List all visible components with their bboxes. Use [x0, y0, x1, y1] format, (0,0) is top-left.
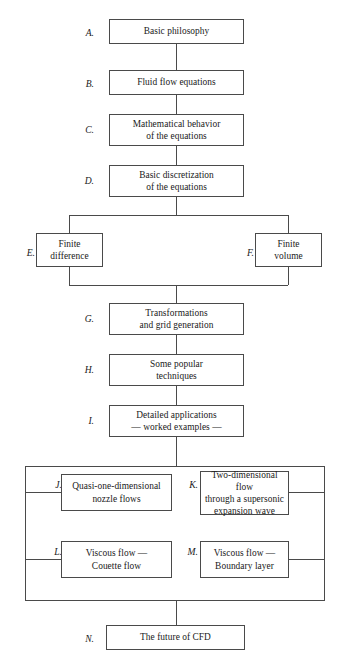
node-a-line-1: Basic philosophy	[144, 25, 210, 37]
node-box-k: Two-dimensional flow through a supersoni…	[200, 471, 289, 515]
node-c-line-2: of the equations	[133, 130, 221, 142]
node-box-m: Viscous flow — Boundary layer	[200, 541, 289, 578]
connector-g-h	[176, 335, 177, 354]
node-l-line-2: Couette flow	[86, 560, 148, 572]
node-i-line-2: — worked examples —	[131, 421, 221, 433]
node-h-line-2: techniques	[150, 370, 203, 382]
node-d-line-2: of the equations	[139, 181, 214, 193]
connector-h-i	[176, 386, 177, 405]
node-g-line-1: Transformations	[140, 307, 214, 319]
split-leg-f	[288, 215, 289, 233]
merge-bar-ef-bottom	[69, 285, 288, 286]
node-d-line-1: Basic discretization	[139, 169, 214, 181]
node-label-l: L.	[40, 547, 62, 557]
node-e-line-1: Finite	[50, 238, 88, 250]
flowchart-diagram: A. Basic philosophy B. Fluid flow equati…	[0, 0, 340, 659]
node-box-h: Some popular techniques	[109, 354, 244, 386]
node-label-g: G.	[72, 314, 94, 324]
node-c-line-1: Mathematical behavior	[133, 118, 221, 130]
node-f-line-1: Finite	[274, 238, 302, 250]
node-e-line-2: difference	[50, 250, 88, 262]
node-l-line-1: Viscous flow —	[86, 547, 148, 559]
connector-b-c	[176, 95, 177, 114]
node-label-a: A.	[72, 28, 94, 38]
connector-a-b	[176, 44, 177, 70]
node-g-line-2: and grid generation	[140, 319, 214, 331]
node-j-line-2: nozzle flows	[72, 493, 161, 505]
node-box-g: Transformations and grid generation	[109, 303, 244, 335]
node-i-line-1: Detailed applications	[131, 409, 221, 421]
node-box-e: Finite difference	[36, 233, 103, 267]
connector-group-n	[176, 601, 177, 625]
node-box-j: Quasi-one-dimensional nozzle flows	[61, 474, 172, 511]
node-label-b: B.	[72, 79, 94, 89]
node-label-f: F.	[232, 248, 254, 258]
node-b-line-1: Fluid flow equations	[137, 76, 216, 88]
connector-i-group	[176, 437, 177, 466]
node-m-line-2: Boundary layer	[214, 560, 276, 572]
node-label-c: C.	[72, 125, 94, 135]
node-box-n: The future of CFD	[106, 625, 245, 650]
merge-leg-e	[69, 267, 70, 285]
bracket-stub-k	[289, 492, 325, 493]
connector-merge-g	[176, 285, 177, 303]
node-j-line-1: Quasi-one-dimensional	[72, 480, 161, 492]
node-n-line-1: The future of CFD	[140, 631, 211, 643]
node-box-c: Mathematical behavior of the equations	[109, 114, 244, 146]
node-f-line-2: volume	[274, 250, 302, 262]
split-bar-ef-top	[69, 215, 288, 216]
node-label-i: I.	[72, 416, 94, 426]
node-label-e: E.	[13, 248, 35, 258]
merge-leg-f	[288, 267, 289, 285]
node-box-b: Fluid flow equations	[109, 70, 244, 95]
node-h-line-1: Some popular	[150, 358, 203, 370]
node-box-f: Finite volume	[255, 233, 322, 267]
node-box-i: Detailed applications — worked examples …	[109, 405, 244, 437]
node-k-line-2: through a supersonic	[204, 493, 285, 505]
connector-d-split	[176, 197, 177, 215]
node-label-n: N.	[72, 634, 94, 644]
node-k-line-1: Two-dimensional flow	[204, 469, 285, 493]
node-box-l: Viscous flow — Couette flow	[61, 541, 172, 578]
node-k-line-3: expansion wave	[204, 505, 285, 517]
node-m-line-1: Viscous flow —	[214, 547, 276, 559]
split-leg-e	[69, 215, 70, 233]
node-label-m: M.	[173, 547, 198, 557]
node-label-k: K.	[176, 480, 198, 490]
node-box-d: Basic discretization of the equations	[109, 165, 244, 197]
bracket-stub-j	[25, 492, 61, 493]
node-label-j: J.	[40, 480, 62, 490]
connector-c-d	[176, 146, 177, 165]
bracket-stub-m	[289, 559, 325, 560]
node-box-a: Basic philosophy	[109, 19, 244, 44]
node-label-h: H.	[72, 365, 94, 375]
node-label-d: D.	[72, 176, 94, 186]
bracket-stub-l	[25, 559, 61, 560]
